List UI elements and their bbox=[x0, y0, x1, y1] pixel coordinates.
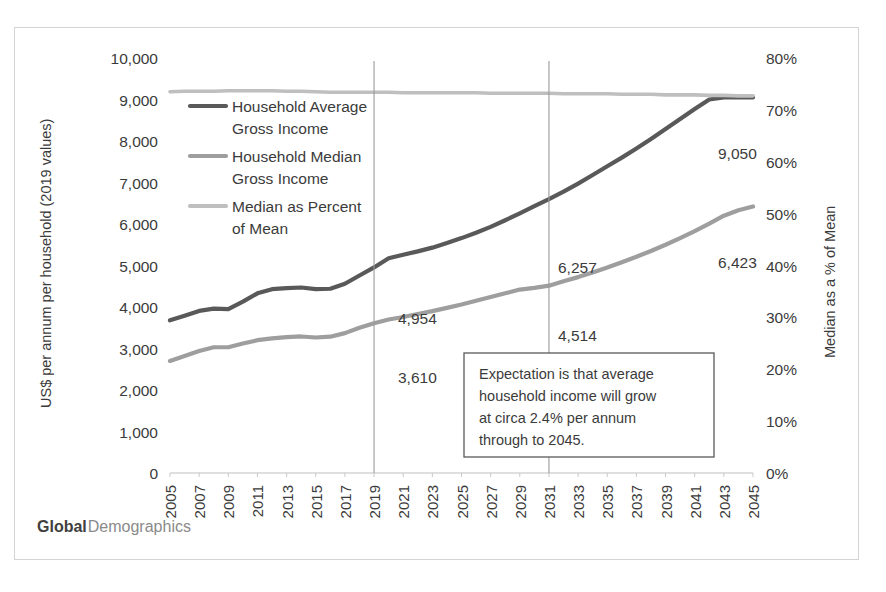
chart-frame: 10,0009,0008,0007,0006,0005,0004,0003,00… bbox=[14, 27, 859, 560]
data-label-avg-2019: 4,954 bbox=[398, 310, 437, 327]
data-label-avg-2031: 6,257 bbox=[558, 259, 597, 276]
x-axis-tick-label: 2033 bbox=[570, 485, 587, 518]
legend-label-2-cont: of Mean bbox=[232, 220, 288, 237]
x-axis-tick-label: 2011 bbox=[249, 485, 266, 517]
data-label-group: 4,9543,6106,2574,5149,0506,423 bbox=[398, 145, 757, 386]
growth-note-annotation: Expectation is that averagehousehold inc… bbox=[464, 353, 714, 457]
data-label-med-2031: 4,514 bbox=[558, 327, 597, 344]
y-axis-left-tick-label: 10,000 bbox=[111, 50, 159, 67]
x-axis-tick-label: 2023 bbox=[424, 485, 441, 518]
y-axis-right-tick-label: 40% bbox=[766, 258, 797, 275]
x-axis-tick-label: 2009 bbox=[220, 485, 237, 518]
series-line-percent bbox=[170, 91, 753, 96]
y-axis-left-tick-label: 7,000 bbox=[119, 175, 158, 192]
y-axis-left-tick-label: 1,000 bbox=[119, 424, 158, 441]
growth-note-line-0: Expectation is that average bbox=[479, 366, 654, 382]
chart-legend: Household AverageGross IncomeHousehold M… bbox=[190, 98, 367, 237]
x-axis-tick-label: 2021 bbox=[395, 485, 412, 518]
x-axis-tick-label: 2029 bbox=[512, 485, 529, 518]
y-axis-right-tick-label: 10% bbox=[766, 413, 797, 430]
y-axis-right-title: Median as a % of Mean bbox=[822, 206, 838, 358]
y-axis-right-tick-label: 20% bbox=[766, 361, 797, 378]
y-axis-left-tick-label: 4,000 bbox=[119, 299, 158, 316]
x-axis-tick-label: 2015 bbox=[308, 485, 325, 518]
y-axis-right-tick-label: 60% bbox=[766, 154, 797, 171]
y-axis-right-tick-label: 80% bbox=[766, 50, 797, 67]
y-axis-left-tick-label: 2,000 bbox=[119, 382, 158, 399]
x-axis-tick-label: 2027 bbox=[483, 485, 500, 518]
legend-label-2: Median as Percent bbox=[232, 198, 362, 215]
x-axis-tick-label: 2025 bbox=[454, 485, 471, 518]
y-axis-left-ticks: 10,0009,0008,0007,0006,0005,0004,0003,00… bbox=[111, 50, 159, 482]
x-axis-tick-label: 2041 bbox=[687, 485, 704, 518]
data-label-med-2045: 6,423 bbox=[718, 254, 757, 271]
x-axis-ticks: 2005200720092011201320152017201920212023… bbox=[162, 473, 762, 518]
y-axis-left-tick-label: 9,000 bbox=[119, 92, 158, 109]
brand-name-light: Demographics bbox=[88, 518, 191, 535]
data-label-avg-2045: 9,050 bbox=[718, 145, 757, 162]
y-axis-left-tick-label: 3,000 bbox=[119, 341, 158, 358]
y-axis-right-tick-label: 30% bbox=[766, 309, 797, 326]
y-axis-right-ticks: 80%70%60%50%40%30%20%10%0% bbox=[766, 50, 797, 482]
x-axis-tick-label: 2035 bbox=[599, 485, 616, 518]
x-axis-tick-label: 2043 bbox=[716, 485, 733, 518]
y-axis-left-tick-label: 8,000 bbox=[119, 133, 158, 150]
y-axis-left-tick-label: 0 bbox=[149, 465, 158, 482]
x-axis-tick-label: 2013 bbox=[279, 485, 296, 518]
data-label-med-2019: 3,610 bbox=[398, 369, 437, 386]
legend-label-1: Household Median bbox=[232, 148, 361, 165]
brand-name-bold: Global bbox=[37, 518, 87, 535]
x-axis-tick-label: 2017 bbox=[337, 485, 354, 518]
x-axis-tick-label: 2007 bbox=[191, 485, 208, 518]
growth-note-line-3: through to 2045. bbox=[479, 432, 585, 448]
y-axis-right-tick-label: 70% bbox=[766, 102, 797, 119]
growth-note-line-1: household income will grow bbox=[479, 388, 657, 404]
y-axis-right-tick-label: 50% bbox=[766, 206, 797, 223]
x-axis-tick-label: 2019 bbox=[366, 485, 383, 518]
y-axis-right-tick-label: 0% bbox=[766, 465, 789, 482]
legend-label-0-cont: Gross Income bbox=[232, 120, 328, 137]
x-axis-tick-label: 2037 bbox=[628, 485, 645, 518]
income-projection-line-chart: 10,0009,0008,0007,0006,0005,0004,0003,00… bbox=[15, 28, 858, 559]
y-axis-left-title: US$ per annum per household (2019 values… bbox=[38, 119, 54, 408]
legend-label-0: Household Average bbox=[232, 98, 367, 115]
y-axis-left-tick-label: 5,000 bbox=[119, 258, 158, 275]
x-axis-tick-label: 2005 bbox=[162, 485, 179, 518]
x-axis-tick-label: 2045 bbox=[745, 485, 762, 518]
legend-label-1-cont: Gross Income bbox=[232, 170, 328, 187]
x-axis-tick-label: 2039 bbox=[658, 485, 675, 518]
growth-note-line-2: at circa 2.4% per annum bbox=[479, 410, 636, 426]
y-axis-left-tick-label: 6,000 bbox=[119, 216, 158, 233]
x-axis-tick-label: 2031 bbox=[541, 485, 558, 518]
